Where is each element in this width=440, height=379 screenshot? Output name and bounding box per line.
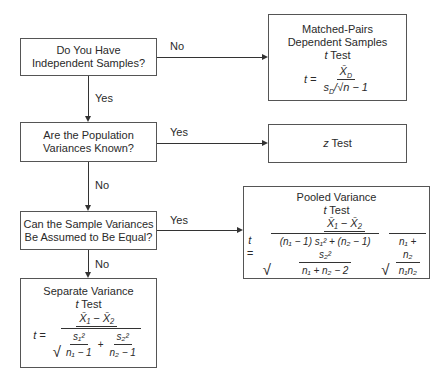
- formula-pooled-variance: t = X̄₁ − X̄₂ √ (n₁ − 1) s₁² + (n₂ − 1) …: [244, 217, 429, 277]
- question-independent-samples: Do You Have Independent Samples?: [20, 38, 157, 76]
- result-title: t Test: [269, 49, 406, 62]
- edge-label-no: No: [170, 40, 184, 52]
- edge-label-no: No: [95, 179, 109, 191]
- connector-q2-no: [88, 162, 89, 205]
- edge-label-no: No: [95, 258, 109, 270]
- question-line: Be Assumed to Be Equal?: [25, 231, 153, 244]
- edge-label-yes: Yes: [170, 126, 188, 138]
- result-z-test: z Test: [268, 124, 407, 163]
- formula-separate-variance: t = X̄₁ − X̄₂ √ s₁² n₁ − 1 + s₂² n₂ − 1: [21, 312, 156, 359]
- result-title: t Test: [244, 204, 429, 217]
- edge-label-yes: Yes: [170, 214, 188, 226]
- connector-q3-no: [88, 250, 89, 272]
- question-variances-equal: Can the Sample Variances Be Assumed to B…: [20, 211, 157, 250]
- question-line: Variances Known?: [43, 142, 134, 155]
- connector-q1-yes: [88, 76, 89, 116]
- arrow-down-icon: [85, 116, 91, 122]
- question-line: Can the Sample Variances: [23, 218, 153, 231]
- result-matched-pairs-t-test: Matched-Pairs Dependent Samples t Test t…: [268, 14, 407, 101]
- result-title: Dependent Samples: [269, 36, 406, 49]
- connector-q2-yes: [157, 143, 262, 144]
- connector-q1-no: [157, 57, 262, 58]
- formula-matched-pairs: t = X̄D sD/√n − 1: [269, 65, 406, 94]
- result-title: Pooled Variance: [244, 191, 429, 204]
- question-line: Independent Samples?: [32, 57, 145, 70]
- result-pooled-variance-t-test: Pooled Variance t Test t = X̄₁ − X̄₂ √ (…: [243, 186, 430, 279]
- connector-q3-yes: [157, 230, 237, 231]
- question-line: Do You Have: [56, 44, 120, 57]
- result-title: t Test: [21, 298, 156, 311]
- arrow-down-icon: [85, 205, 91, 211]
- result-title: Matched-Pairs: [269, 23, 406, 36]
- result-title: Separate Variance: [21, 285, 156, 298]
- edge-label-yes: Yes: [95, 92, 113, 104]
- question-population-variances-known: Are the Population Variances Known?: [20, 122, 157, 162]
- result-separate-variance-t-test: Separate Variance t Test t = X̄₁ − X̄₂ √…: [20, 278, 157, 368]
- question-line: Are the Population: [43, 129, 134, 142]
